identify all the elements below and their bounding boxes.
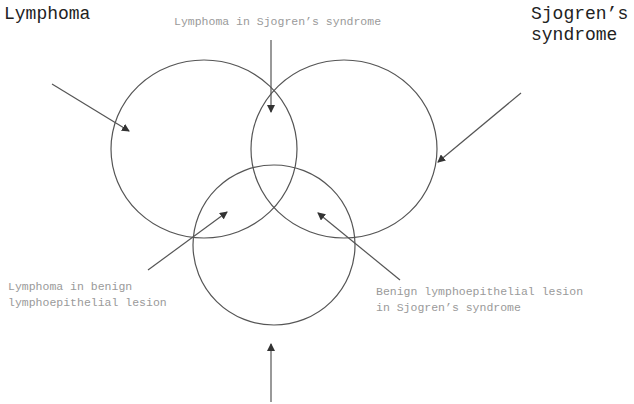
arrow-lymphoma-icon bbox=[52, 84, 129, 131]
label-lymphoma-in-benign-line2: lymphoepithelial lesion bbox=[8, 296, 167, 310]
label-benign-in-sjogrens-line1: Benign lymphoepithelial lesion bbox=[376, 285, 583, 299]
circle-sjogrens-syndrome bbox=[251, 60, 437, 238]
arrow-sjogrens-icon bbox=[438, 93, 521, 162]
circle-lymphoma bbox=[111, 60, 297, 238]
label-sjogrens-line2: syndrome bbox=[531, 25, 617, 47]
label-lymphoma: Lymphoma bbox=[4, 4, 90, 26]
arrow-lymphoma-in-benign-icon bbox=[148, 212, 227, 270]
label-lymphoma-in-sjogrens: Lymphoma in Sjogren’s syndrome bbox=[174, 15, 381, 29]
label-benign-in-sjogrens-line2: in Sjogren’s syndrome bbox=[376, 301, 521, 315]
label-sjogrens-line1: Sjogren’s bbox=[531, 4, 628, 26]
circle-benign-lymphoepithelial-lesion bbox=[193, 165, 355, 325]
venn-diagram bbox=[0, 0, 634, 404]
arrow-benign-in-sjogrens-icon bbox=[318, 213, 400, 280]
label-lymphoma-in-benign-line1: Lymphoma in benign bbox=[8, 280, 132, 294]
